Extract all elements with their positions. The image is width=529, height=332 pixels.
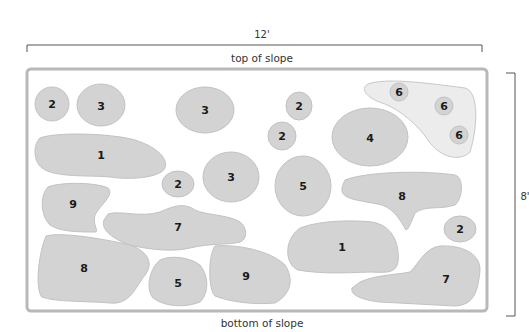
plant-label: 3 <box>201 104 209 117</box>
plant-label: 3 <box>97 100 105 113</box>
garden-plan-diagram: 12' top of slope 8' <box>0 0 529 332</box>
plant-label: 6 <box>440 100 448 113</box>
plant-label: 6 <box>455 129 463 142</box>
plant-label: 6 <box>395 86 403 99</box>
plant-label: 8 <box>398 190 406 203</box>
height-dimension: 8' <box>506 73 529 316</box>
top-caption: top of slope <box>231 52 293 64</box>
plant-label: 1 <box>97 149 105 162</box>
width-dimension: 12' <box>27 29 482 52</box>
plant-label: 2 <box>48 98 56 111</box>
plant-label: 7 <box>174 221 182 234</box>
plant-label: 9 <box>242 270 250 283</box>
bottom-caption: bottom of slope <box>221 317 304 329</box>
plant-label: 4 <box>366 132 374 145</box>
plant-label: 5 <box>174 277 182 290</box>
plant-label: 2 <box>174 178 182 191</box>
plant-label: 8 <box>80 262 88 275</box>
plant-label: 2 <box>295 100 303 113</box>
plant-label: 2 <box>456 223 464 236</box>
plant-label: 2 <box>278 130 286 143</box>
plant-label: 1 <box>338 241 346 254</box>
height-label: 8' <box>520 191 529 202</box>
width-label: 12' <box>254 29 269 40</box>
plant-label: 9 <box>69 198 77 211</box>
plant-label: 7 <box>442 273 450 286</box>
plant-label: 3 <box>227 171 235 184</box>
plant-label: 5 <box>299 180 307 193</box>
